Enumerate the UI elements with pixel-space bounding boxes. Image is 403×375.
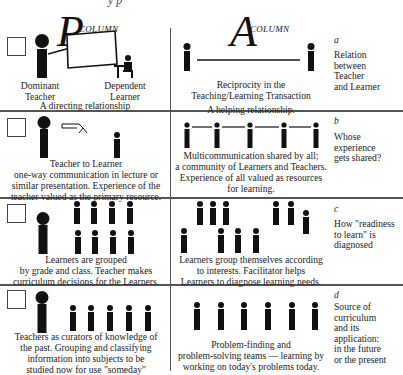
row-d-p-caption: Teachers as curators of knowledge ofthe …	[0, 331, 172, 375]
row-b-checkbox[interactable]	[7, 118, 26, 137]
dominant-teacher-label: DominantTeacher	[10, 80, 70, 102]
row-c-side-text: How "readinessto learn" isdiagnosed	[334, 219, 395, 251]
row-d-side-text: Source ofcurriculumand itsapplication:in…	[334, 302, 386, 365]
a-column-label: COLUMN	[250, 24, 289, 34]
grouped-learners-icon	[72, 201, 142, 255]
row-a-a-caption: Reciprocity in theTeaching/Learning Tran…	[176, 79, 326, 112]
teacher-icon-a	[182, 43, 192, 71]
dominant-teacher-icon	[34, 34, 50, 78]
seated-learner-icon	[114, 54, 136, 78]
row-b-a-caption: Multicommunication shared by all;a commu…	[172, 150, 330, 194]
row-c-a-caption: Learners group themselves accordingto in…	[172, 254, 330, 287]
learner-icon-a	[306, 43, 316, 71]
row-c-p-caption: Learners are groupedby grade and class. …	[0, 254, 172, 287]
multicommunication-network-icon	[183, 122, 323, 148]
row-b-side-letter: b	[334, 116, 339, 127]
learner-icon-b	[112, 132, 122, 158]
interest-groups-icon	[180, 201, 320, 255]
top-fragment: y p	[108, 0, 122, 8]
teacher-icon-b	[37, 116, 51, 158]
row-c-checkbox[interactable]	[7, 204, 26, 223]
chalkboard-icon	[65, 30, 119, 70]
row-d-checkbox[interactable]	[7, 290, 26, 309]
row-c-side-letter: c	[334, 204, 338, 215]
dependent-learner-label: DependentLearner	[100, 80, 150, 102]
curved-arrow-icon	[61, 121, 89, 135]
reciprocity-line	[197, 59, 300, 61]
row-b-p-caption: Teacher to Learnerone-way communication …	[0, 158, 172, 202]
row-a-checkbox[interactable]	[7, 37, 26, 56]
subject-learners-icon	[67, 305, 157, 331]
row-b-side-text: Whoseexperiencegets shared?	[334, 132, 381, 164]
row-a-side-text: RelationbetweenTeacherand Learner	[334, 50, 380, 92]
row-a-side-letter: a	[334, 35, 339, 46]
problem-solving-teams-icon	[192, 302, 320, 330]
row-a-p-caption: A directing relationship	[0, 100, 170, 111]
row-d-side-letter: d	[334, 290, 339, 301]
row-d-a-caption: Problem-finding andproblem-solving teams…	[172, 339, 330, 372]
curator-teacher-icon	[34, 291, 50, 333]
teacher-icon-c	[35, 212, 51, 254]
